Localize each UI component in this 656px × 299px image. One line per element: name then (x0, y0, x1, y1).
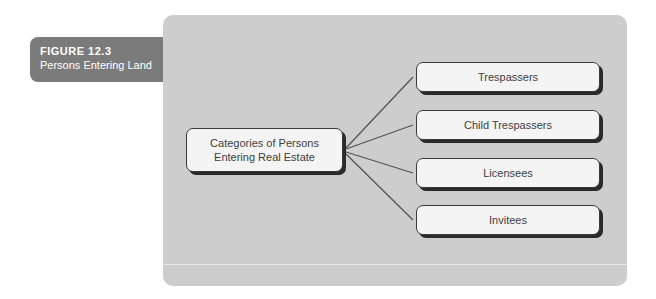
child-node-label: Invitees (489, 213, 527, 227)
figure-number: FIGURE 12.3 (40, 44, 163, 58)
child-node-label: Child Trespassers (464, 118, 552, 132)
child-node-child-trespassers: Child Trespassers (416, 110, 600, 140)
child-node-licensees: Licensees (416, 158, 600, 188)
figure-title: Persons Entering Land (40, 58, 163, 73)
child-node-label: Trespassers (478, 70, 538, 84)
root-node-line1: Categories of Persons (210, 136, 319, 150)
child-node-label: Licensees (483, 166, 533, 180)
root-node-line2: Entering Real Estate (210, 150, 319, 164)
figure-container: FIGURE 12.3 Persons Entering Land Catego… (0, 0, 656, 299)
figure-label-tab: FIGURE 12.3 Persons Entering Land (30, 37, 163, 82)
child-node-trespassers: Trespassers (416, 62, 600, 92)
root-node-categories: Categories of Persons Entering Real Esta… (186, 128, 343, 172)
child-node-invitees: Invitees (416, 205, 600, 235)
panel-divider (163, 264, 627, 265)
